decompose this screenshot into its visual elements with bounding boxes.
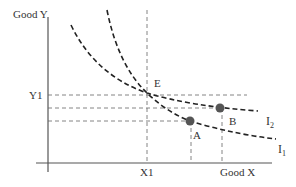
x-axis-label: Good X bbox=[220, 166, 255, 178]
curve-i2 bbox=[71, 25, 258, 111]
y-axis-label: Good Y bbox=[13, 8, 48, 20]
indifference-diagram: Good Y Good X Y1 X1 E A B I2 I1 bbox=[0, 0, 296, 187]
point-a-marker bbox=[186, 117, 195, 126]
point-e-label: E bbox=[154, 77, 161, 89]
y1-tick-label: Y1 bbox=[29, 89, 42, 101]
point-b-marker bbox=[216, 104, 225, 113]
curve-i2-label: I2 bbox=[266, 114, 274, 130]
point-b-label: B bbox=[229, 115, 236, 127]
guide-lines bbox=[48, 10, 247, 163]
curve-i1-label: I1 bbox=[278, 142, 286, 158]
x1-tick-label: X1 bbox=[140, 166, 153, 178]
point-a-label: A bbox=[193, 129, 201, 141]
